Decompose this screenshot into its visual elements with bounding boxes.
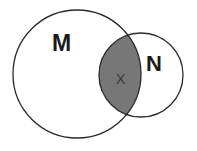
set-m-label: M <box>52 32 71 55</box>
venn-diagram <box>0 0 197 151</box>
set-n-label: N <box>146 53 162 75</box>
intersection-label: X <box>116 72 125 86</box>
